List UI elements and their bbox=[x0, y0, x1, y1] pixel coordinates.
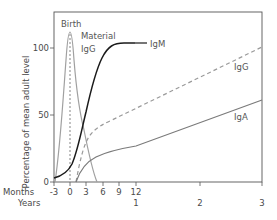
x-tick-y3: 3 bbox=[259, 198, 264, 208]
igm-label: IgM bbox=[150, 39, 165, 49]
y-tick-50: 50 bbox=[38, 110, 49, 120]
y-axis-title: Percentage of mean adult level bbox=[21, 56, 31, 189]
x-tick-m3: 3 bbox=[83, 187, 88, 197]
maternal-igg-curve bbox=[55, 32, 97, 182]
y-axis: 0 50 100 Percentage of mean adult level bbox=[21, 43, 54, 188]
x-tick-m12: 12 bbox=[131, 187, 142, 197]
x-tick-m0: 0 bbox=[67, 187, 72, 197]
x-tick-m9: 9 bbox=[116, 187, 121, 197]
x-row-years-label: Years bbox=[17, 198, 41, 208]
x-tick-y2: 2 bbox=[197, 198, 202, 208]
maternal-igg-annotation: IgG bbox=[81, 44, 96, 54]
iga-label: IgA bbox=[234, 112, 248, 122]
x-tick-m-neg3: -3 bbox=[50, 187, 58, 197]
igg-label: IgG bbox=[234, 62, 249, 72]
birth-annotation: Birth bbox=[61, 19, 81, 29]
y-tick-0: 0 bbox=[44, 177, 49, 187]
maternal-annotation: Material bbox=[81, 31, 116, 41]
x-row-months-label: Months bbox=[3, 187, 35, 197]
x-axis: Months -3 0 3 6 9 12 Years 1 2 3 bbox=[3, 182, 265, 208]
y-tick-100: 100 bbox=[33, 43, 49, 53]
x-tick-m6: 6 bbox=[100, 187, 105, 197]
x-tick-y1: 1 bbox=[133, 198, 138, 208]
antibody-level-chart: 0 50 100 Percentage of mean adult level … bbox=[0, 0, 277, 220]
